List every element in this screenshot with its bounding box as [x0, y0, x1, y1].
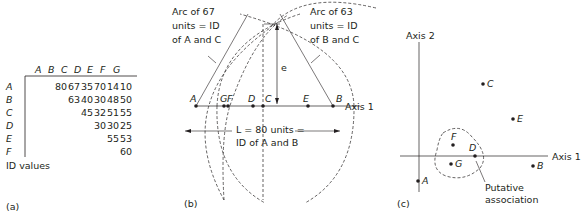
- point-e: [511, 117, 515, 121]
- axis2-label: Axis 2: [406, 30, 435, 41]
- matrix-cell: 67: [68, 81, 80, 92]
- axis1-label-c: Axis 1: [552, 151, 581, 162]
- point-label-g: G: [455, 158, 462, 169]
- matrix-cell: 32: [94, 107, 106, 118]
- axis1-label-b: Axis 1: [345, 101, 374, 112]
- point-label-e: E: [517, 113, 523, 124]
- point-d: [473, 154, 477, 158]
- arc-67-label-line1: Arc of 67: [172, 6, 215, 17]
- annotation-line2: association: [485, 194, 538, 205]
- point-label-b: B: [336, 93, 343, 104]
- matrix-cell: 50: [120, 94, 132, 105]
- matrix-row-label: A: [6, 81, 13, 92]
- arc-63-label-line1: Arc of 63: [310, 6, 353, 17]
- annotation-line1: Putative: [485, 182, 524, 193]
- matrix-row-label: E: [6, 133, 12, 144]
- matrix-cell: 30: [107, 120, 119, 131]
- panel-c-label: (c): [397, 198, 410, 209]
- arc-63-label-line2: units = ID: [310, 20, 357, 31]
- matrix-row-label: D: [6, 120, 13, 131]
- point-label-f: F: [227, 93, 232, 104]
- matrix-cell: 25: [120, 120, 132, 131]
- length-label-line2: ID of A and B: [236, 137, 298, 148]
- point-g: [449, 162, 453, 166]
- matrix-cell: 45: [81, 107, 93, 118]
- matrix-cell: 30: [94, 94, 106, 105]
- panel-a-id-matrix: ABCDEFG A806735701410B6340304850C4532515…: [0, 0, 160, 215]
- matrix-cell: 60: [120, 146, 132, 157]
- matrix-cell: 14: [107, 81, 119, 92]
- e-label: e: [281, 62, 287, 73]
- point-a: [416, 179, 420, 183]
- matrix-cell: 55: [120, 107, 132, 118]
- point-label-e: E: [303, 93, 309, 104]
- matrix-cell: 51: [107, 107, 119, 118]
- point-label-d: D: [248, 93, 255, 104]
- matrix-cell: 70: [94, 81, 106, 92]
- matrix-cell: 30: [94, 120, 106, 131]
- panel-a-label: (a): [6, 201, 19, 212]
- matrix-cell: 35: [81, 81, 93, 92]
- matrix-cell: 55: [107, 133, 119, 144]
- point-label-a: A: [190, 93, 197, 104]
- point-label-b: B: [537, 160, 544, 171]
- matrix-row-label: F: [6, 146, 11, 157]
- matrix-row-label: B: [6, 94, 13, 105]
- panel-b-construction: Arc of 67 units = ID of A and C Arc of 6…: [160, 0, 380, 215]
- matrix-cell: 53: [120, 133, 132, 144]
- matrix-row-label: C: [6, 107, 13, 118]
- matrix-cell: 63: [68, 94, 80, 105]
- point-label-f: F: [451, 131, 456, 142]
- panel-c-ordination: Axis 2 Axis 1 Putative association (c) C…: [380, 0, 584, 215]
- point-c: [481, 82, 485, 86]
- matrix-axes-lines: [0, 0, 160, 215]
- point-label-c: C: [265, 93, 272, 104]
- point-f: [451, 143, 455, 147]
- matrix-cell: 10: [120, 81, 132, 92]
- matrix-cell: 40: [81, 94, 93, 105]
- arc-67-label-line2: units = ID: [172, 20, 219, 31]
- matrix-cell: 80: [55, 81, 67, 92]
- panel-b-label: (b): [184, 198, 197, 209]
- point-b: [531, 164, 535, 168]
- id-values-caption: ID values: [6, 160, 50, 171]
- point-label-a: A: [422, 175, 429, 186]
- point-label-c: C: [487, 78, 494, 89]
- arc-63-label-line3: of B and C: [310, 34, 359, 45]
- arc-67-label-line3: of A and C: [172, 34, 221, 45]
- point-label-d: D: [469, 142, 476, 153]
- length-label-line1: L = 80 units =: [236, 124, 305, 135]
- matrix-cell: 48: [107, 94, 119, 105]
